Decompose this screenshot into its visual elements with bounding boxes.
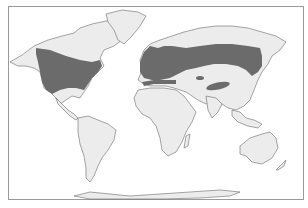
landmass-central-america: [56, 98, 78, 120]
range-central-asia-small-patch: [196, 76, 204, 80]
landmass-south-america: [78, 116, 116, 182]
landmass-antarctica: [74, 190, 240, 199]
landmass-australia: [240, 132, 278, 164]
landmass-madagascar: [184, 134, 190, 148]
landmass-new-zealand: [276, 160, 286, 170]
landmass-southeast-asia: [232, 110, 262, 128]
world-map: [0, 0, 308, 208]
